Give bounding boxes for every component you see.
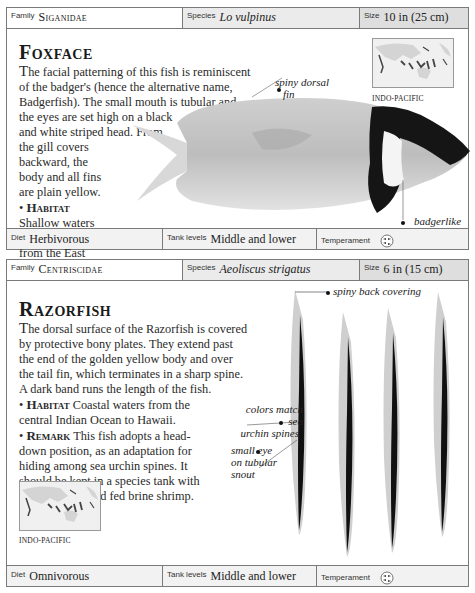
entry-header: Family Siganidae Species Lo vulpinus Siz… [7,8,468,29]
fish-group-icon [380,571,394,585]
tank-levels-cell: Tank levels Middle and lower [163,229,317,249]
range-map [20,482,100,530]
size-value: 6 in (15 cm) [384,262,443,277]
species-value: Lo vulpinus [219,10,275,25]
diet-value: Herbivorous [29,232,89,247]
size-cell: Size 10 in (25 cm) [360,8,468,28]
page-title: Foxface [19,41,93,64]
entry-header: Family Centriscidae Species Aeoliscus st… [7,260,468,281]
razorfish-entry: Family Centriscidae Species Aeoliscus st… [6,259,469,587]
entry-footer: Diet Omnivorous Tank levels Middle and l… [7,565,468,586]
range-map [373,39,453,87]
species-cell: Species Aeoliscus strigatus [183,260,360,280]
diet-cell: Diet Herbivorous [7,229,163,249]
razorfish-4 [434,292,450,537]
razorfish-illustration [287,290,475,560]
annotation-line [402,180,404,220]
family-cell: Family Centriscidae [7,260,183,280]
razorfish-3 [384,308,400,553]
map-label: INDO-PACIFIC [19,536,71,545]
species-value: Aeoliscus strigatus [219,262,310,277]
tank-levels-value: Middle and lower [211,232,296,247]
size-cell: Size 6 in (15 cm) [360,260,468,280]
entry-footer: Diet Herbivorous Tank levels Middle and … [7,228,468,249]
family-value: Centriscidae [39,262,103,277]
fish-group-icon [380,234,394,248]
world-map-icon [19,481,101,531]
annotation-colors: colors match sea urchin spines [233,403,303,439]
family-cell: Family Siganidae [7,8,183,28]
remark-paragraph: • Remark This fish adopts a head- [19,428,247,444]
temperament-cell: Temperament [317,229,468,249]
species-cell: Species Lo vulpinus [183,8,360,28]
size-value: 10 in (25 cm) [384,10,449,25]
annotation-dot [279,421,283,425]
annotation-dot [256,450,260,454]
temperament-cell: Temperament [317,566,468,586]
diet-value: Omnivorous [29,569,89,584]
foxface-fish-illustration [132,83,462,233]
diet-cell: Diet Omnivorous [7,566,163,586]
foxface-entry: Family Siganidae Species Lo vulpinus Siz… [6,7,469,250]
tank-levels-value: Middle and lower [211,569,296,584]
annotation-dot [401,221,405,225]
annotation-eye: small eye on tubular snout [231,444,277,480]
world-map-icon [372,38,454,88]
razorfish-2 [339,312,355,557]
annotation-back-covering: spiny back covering [333,285,421,297]
tank-levels-cell: Tank levels Middle and lower [163,566,317,586]
habitat-paragraph: • Habitat Coastal waters from the [19,397,247,413]
page-title: Razorfish [19,298,111,321]
annotation-dot [277,88,281,92]
annotation-dorsal-fin: spiny dorsal fin [275,76,329,100]
description: The dorsal surface of the Razorfish is c… [19,321,247,504]
family-value: Siganidae [39,10,87,25]
annotation-dot [326,291,330,295]
